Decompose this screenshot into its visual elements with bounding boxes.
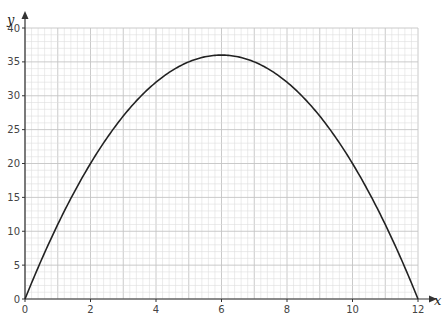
svg-text:4: 4 (153, 304, 159, 315)
tick-labels: 0246810120510152025303540 (7, 23, 424, 316)
svg-text:10: 10 (7, 226, 20, 237)
svg-text:12: 12 (412, 304, 425, 315)
svg-text:30: 30 (7, 90, 20, 101)
svg-text:6: 6 (218, 304, 224, 315)
chart: 0246810120510152025303540 y x (0, 0, 444, 320)
svg-text:20: 20 (7, 158, 20, 169)
svg-text:10: 10 (346, 304, 359, 315)
svg-text:5: 5 (14, 260, 20, 271)
x-axis-label: x (434, 293, 442, 308)
svg-text:35: 35 (7, 56, 20, 67)
svg-text:25: 25 (7, 124, 20, 135)
svg-text:0: 0 (22, 304, 28, 315)
svg-text:8: 8 (284, 304, 290, 315)
y-axis-label: y (6, 12, 15, 27)
svg-text:2: 2 (87, 304, 93, 315)
svg-text:0: 0 (14, 294, 20, 305)
svg-text:15: 15 (7, 192, 20, 203)
grid (25, 28, 418, 299)
